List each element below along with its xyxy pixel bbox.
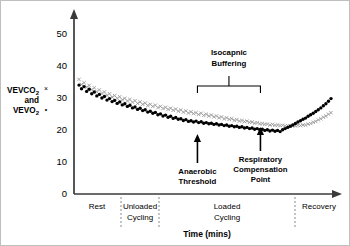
y-axis-label-line2: and [24,96,39,105]
data-point-vevo2 [118,100,121,103]
data-point-vevo2 [87,88,90,91]
y-axis-label-line1: VEVCO2 [7,86,40,96]
isocapnic-label-line2: Buffering [212,59,247,68]
data-point-vevo2 [329,97,332,100]
phase-label-rest: Rest [89,202,106,211]
chart-figure: 0 10 20 30 40 50 VEVCO2 × and VEVO2 • Re… [1,1,349,245]
respiratory-label-line3: Point [251,175,271,184]
phase-label-unloaded-line2: Cycling [127,213,153,222]
data-point-vevo2 [113,99,116,102]
data-point-vevo2 [138,107,141,110]
y-axis-label-line3: VEVO2 [13,106,40,116]
data-point-vevo2 [103,95,106,98]
data-point-vevo2 [154,111,157,114]
data-point-vevo2 [133,105,136,108]
data-point-vevo2 [93,90,96,93]
respiratory-label-line1: Respiratory [239,155,283,164]
phase-label-recovery: Recovery [302,202,336,211]
data-point-vevo2 [82,85,85,88]
y-tick-10: 10 [56,156,67,167]
data-point-vevo2 [324,102,327,105]
data-point-vevo2 [77,83,80,86]
isocapnic-label-line1: Isocapnic [211,48,248,57]
phase-label-loaded-line1: Loaded [214,202,241,211]
x-axis-title: Time (mins) [183,229,231,239]
data-point-vevo2 [128,104,131,107]
data-point-vevo2 [98,93,101,96]
legend-marker-vevco2-icon: × [44,85,48,92]
phase-label-loaded-line2: Cycling [214,213,240,222]
data-point-vevo2 [123,102,126,105]
chart-svg: 0 10 20 30 40 50 VEVCO2 × and VEVO2 • Re… [1,1,349,245]
data-point-vevo2 [143,108,146,111]
ylabel-vevo2: VEVO [13,106,36,115]
y-tick-50: 50 [56,28,67,39]
anaerobic-label-line2: Threshold [179,177,217,186]
respiratory-label-line2: Compensation [233,165,287,174]
data-point-vevo2 [108,97,111,100]
data-point-vevo2 [327,100,330,103]
ylabel-vevco2: VEVCO [7,86,36,95]
phase-label-unloaded-line1: Unloaded [123,202,157,211]
y-tick-40: 40 [56,60,67,71]
y-tick-30: 30 [56,92,67,103]
y-tick-20: 20 [56,124,67,135]
anaerobic-label-line1: Anaerobic [178,167,217,176]
y-tick-0: 0 [62,188,67,199]
